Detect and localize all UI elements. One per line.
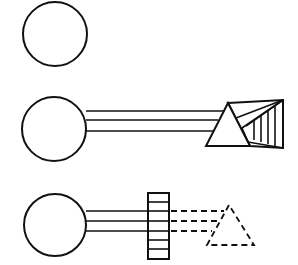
light-source-circle xyxy=(24,194,86,256)
beam-lines xyxy=(86,111,224,131)
beam-lines xyxy=(86,211,148,231)
panel-source-beam-prism xyxy=(22,97,283,161)
hatched-filter-block xyxy=(148,193,169,259)
optics-diagram xyxy=(0,0,298,265)
panel-source-only xyxy=(23,2,87,66)
panel-source-beam-filter xyxy=(24,193,254,259)
light-source-circle xyxy=(23,2,87,66)
dashed-beam xyxy=(171,211,224,231)
light-source-circle xyxy=(22,97,86,161)
